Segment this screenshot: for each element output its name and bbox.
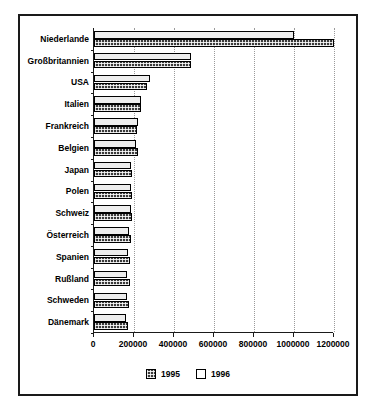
bar-1995-schweiz — [94, 213, 132, 221]
legend-entry-1996[interactable]: 1996 — [196, 369, 230, 379]
x-axis-tick — [133, 333, 134, 337]
bar-row — [94, 159, 333, 181]
chart-figure: NiederlandeGroßbritannienUSAItalienFrank… — [0, 0, 379, 414]
bar-row — [94, 224, 333, 246]
x-axis-tick-label: 200000 — [119, 339, 147, 349]
x-axis-tick — [293, 333, 294, 337]
chart-legend: 19951996 — [18, 364, 358, 384]
bar-row — [94, 202, 333, 224]
bar-1995-belgien — [94, 148, 138, 156]
bar-rows — [94, 28, 333, 332]
x-axis-tick — [173, 333, 174, 337]
y-axis-label-polen: Polen — [66, 186, 89, 196]
legend-label-1996: 1996 — [211, 369, 230, 379]
bar-1995-niederlande — [94, 39, 334, 47]
bar-1995-italien — [94, 104, 141, 112]
bar-row — [94, 289, 333, 311]
bar-1995-polen — [94, 192, 132, 200]
y-axis-label-schweiz: Schweiz — [55, 208, 89, 218]
x-axis-tick-label: 400000 — [159, 339, 187, 349]
y-axis-label-italien: Italien — [64, 99, 89, 109]
x-axis-tick-label: 1200000 — [316, 339, 349, 349]
y-axis-label-österreich: Österreich — [46, 230, 89, 240]
bar-1996-spanien — [94, 249, 128, 257]
bar-1996-dänemark — [94, 314, 126, 322]
bar-row — [94, 28, 333, 50]
bar-1995-japan — [94, 170, 132, 178]
x-axis-tick — [333, 333, 334, 337]
legend-label-1995: 1995 — [161, 369, 180, 379]
bar-row — [94, 137, 333, 159]
x-axis-tick-label: 600000 — [199, 339, 227, 349]
legend-entry-1995[interactable]: 1995 — [146, 369, 180, 379]
bar-row — [94, 72, 333, 94]
x-axis-tick — [213, 333, 214, 337]
y-axis-labels: NiederlandeGroßbritannienUSAItalienFrank… — [18, 28, 89, 333]
x-axis-tick — [93, 333, 94, 337]
bar-1995-spanien — [94, 257, 130, 265]
bar-1995-frankreich — [94, 126, 137, 134]
bar-1995-großbritannien — [94, 61, 191, 69]
y-axis-label-rußland: Rußland — [55, 274, 89, 284]
bar-1996-italien — [94, 96, 141, 104]
bar-1996-österreich — [94, 227, 129, 235]
x-axis-tick-label: 1000000 — [276, 339, 309, 349]
x-axis-tick-label: 0 — [91, 339, 96, 349]
x-axis-tick-label: 800000 — [239, 339, 267, 349]
bar-1996-usa — [94, 75, 150, 83]
bar-row — [94, 311, 333, 333]
bar-1996-polen — [94, 184, 131, 192]
gridline — [334, 28, 335, 332]
bar-row — [94, 50, 333, 72]
legend-swatch-1995 — [146, 369, 156, 379]
legend-swatch-1996 — [196, 369, 206, 379]
bar-1996-belgien — [94, 140, 136, 148]
x-axis: 020000040000060000080000010000001200000 — [93, 333, 333, 357]
y-axis-label-niederlande: Niederlande — [40, 34, 89, 44]
y-axis-label-spanien: Spanien — [56, 252, 89, 262]
bar-1995-schweden — [94, 301, 129, 309]
bar-1996-großbritannien — [94, 53, 191, 61]
bar-1995-usa — [94, 83, 147, 91]
bar-1996-japan — [94, 162, 131, 170]
bar-1996-rußland — [94, 271, 127, 279]
bar-row — [94, 268, 333, 290]
y-axis-label-frankreich: Frankreich — [46, 121, 89, 131]
y-axis-label-dänemark: Dänemark — [48, 317, 89, 327]
bar-row — [94, 246, 333, 268]
bar-1996-schweden — [94, 293, 127, 301]
bar-1996-frankreich — [94, 118, 138, 126]
bar-row — [94, 115, 333, 137]
bar-1995-rußland — [94, 279, 130, 287]
bar-row — [94, 181, 333, 203]
bar-row — [94, 93, 333, 115]
y-axis-label-japan: Japan — [64, 165, 89, 175]
bar-1996-niederlande — [94, 31, 294, 39]
y-axis-label-großbritannien: Großbritannien — [28, 56, 89, 66]
y-axis-label-usa: USA — [71, 77, 89, 87]
bar-1996-schweiz — [94, 205, 131, 213]
plot-area — [93, 28, 333, 333]
y-axis-label-schweden: Schweden — [47, 295, 89, 305]
bar-1995-dänemark — [94, 322, 128, 330]
x-axis-tick — [253, 333, 254, 337]
y-axis-label-belgien: Belgien — [58, 143, 89, 153]
bar-1995-österreich — [94, 235, 131, 243]
